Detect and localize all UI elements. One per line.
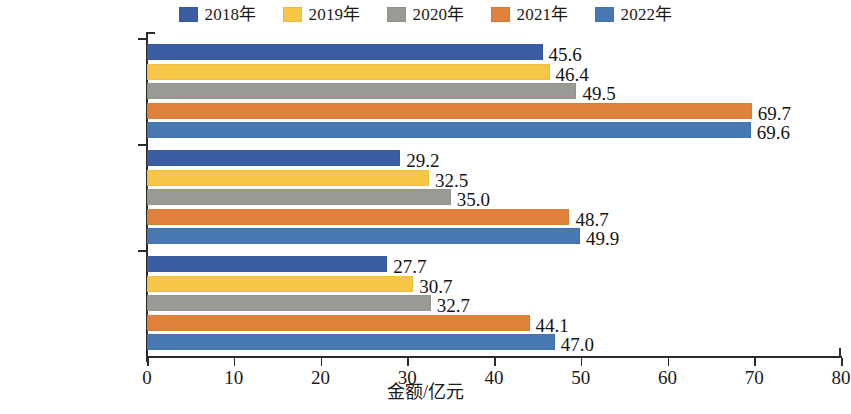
bar-2021年-3 (147, 315, 530, 331)
legend-label: 2018年 (205, 6, 257, 23)
x-tick-mark (321, 358, 323, 366)
x-tick-mark (581, 358, 583, 366)
legend-item-2019年[interactable]: 2019年 (283, 6, 361, 23)
bar-2022年-1 (147, 122, 751, 138)
bar-2019年-2 (147, 170, 429, 186)
legend-item-2020年[interactable]: 2020年 (387, 6, 465, 23)
bar-value-label: 35.0 (457, 190, 490, 209)
bar-value-label: 29.2 (406, 151, 439, 170)
x-tick-mark (754, 358, 756, 366)
bar-value-label: 69.6 (757, 123, 790, 142)
bar-value-label: 69.7 (758, 104, 791, 123)
bar-2022年-3 (147, 334, 555, 350)
legend-item-2022年[interactable]: 2022年 (595, 6, 673, 23)
x-tick-mark (494, 358, 496, 366)
y-axis-top-cap (146, 32, 155, 34)
legend-swatch-icon (387, 7, 406, 22)
legend-label: 2020年 (413, 6, 465, 23)
legend-swatch-icon (179, 7, 198, 22)
y-tick-mark (138, 250, 147, 252)
chart-legend: 2018年2019年2020年2021年2022年 (0, 6, 851, 23)
x-tick-mark (234, 358, 236, 366)
legend-swatch-icon (491, 7, 510, 22)
legend-item-2021年[interactable]: 2021年 (491, 6, 569, 23)
y-tick-mark (138, 144, 147, 146)
bar-value-label: 32.5 (435, 171, 468, 190)
bar-value-label: 44.1 (536, 316, 569, 335)
bar-chart: 2018年2019年2020年2021年2022年 01020304050607… (0, 0, 851, 414)
legend-swatch-icon (595, 7, 614, 22)
bar-value-label: 47.0 (561, 335, 594, 354)
x-tick-mark (147, 358, 149, 366)
legend-label: 2019年 (309, 6, 361, 23)
x-tick-mark (407, 358, 409, 366)
legend-item-2018年[interactable]: 2018年 (179, 6, 257, 23)
bar-2019年-3 (147, 276, 413, 292)
bar-2022年-2 (147, 228, 580, 244)
bar-value-label: 48.7 (575, 210, 608, 229)
bar-2020年-3 (147, 295, 431, 311)
y-tick-mark (138, 38, 147, 40)
bar-2019年-1 (147, 64, 550, 80)
x-tick-mark (841, 358, 843, 366)
bar-value-label: 49.9 (586, 229, 619, 248)
bar-value-label: 46.4 (556, 65, 589, 84)
bar-value-label: 32.7 (437, 296, 470, 315)
bar-2020年-1 (147, 83, 576, 99)
bar-2021年-2 (147, 209, 569, 225)
plot-area: 01020304050607080 45.646.449.569.769.629… (147, 38, 841, 356)
x-axis-right-cap (839, 348, 841, 358)
legend-swatch-icon (283, 7, 302, 22)
bar-2018年-3 (147, 256, 387, 272)
bar-value-label: 30.7 (419, 277, 452, 296)
bar-2020年-2 (147, 189, 451, 205)
bar-2018年-2 (147, 150, 400, 166)
bar-value-label: 49.5 (582, 84, 615, 103)
legend-label: 2022年 (621, 6, 673, 23)
bar-2018年-1 (147, 44, 543, 60)
bar-value-label: 45.6 (549, 45, 582, 64)
bar-2021年-1 (147, 103, 752, 119)
x-tick-mark (668, 358, 670, 366)
x-axis-title: 金额/亿元 (0, 382, 851, 402)
bar-value-label: 27.7 (393, 257, 426, 276)
legend-label: 2021年 (517, 6, 569, 23)
